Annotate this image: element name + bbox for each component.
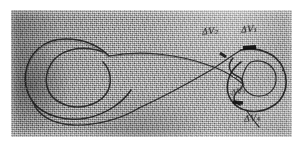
burn-upper-mark (243, 47, 256, 48)
right-tail-stroke (247, 111, 259, 127)
scanned-paper-area (11, 10, 292, 137)
left-inner-loop-stroke (46, 48, 110, 106)
figure-root: ΔV₂ ΔV₁ ΔV₃ ΔV₄ (0, 0, 302, 151)
burn-entry-mark (220, 53, 226, 57)
lower-transfer-leg-stroke (139, 50, 241, 108)
ink-drawing-layer (11, 10, 292, 137)
burn-lower-mark (233, 102, 243, 103)
right-loop-ghost-stroke (242, 50, 284, 69)
right-inner-circle-stroke (242, 61, 276, 96)
